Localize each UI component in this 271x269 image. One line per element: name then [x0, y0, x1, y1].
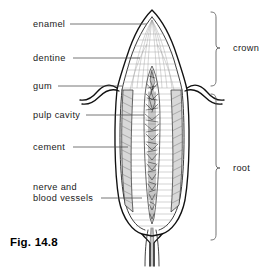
label-enamel: enamel: [33, 19, 65, 29]
label-nerve-vessels-line1: nerve and: [33, 182, 77, 192]
tooth-diagram-figure: enamel dentine gum pulp cavity cement ne…: [0, 0, 271, 269]
label-gum: gum: [33, 81, 52, 91]
bracket-label-crown: crown: [233, 43, 259, 53]
label-nerve-vessels-line2: blood vessels: [33, 193, 93, 203]
figure-caption: Fig. 14.8: [10, 236, 58, 248]
diagram-canvas: enamel dentine gum pulp cavity cement ne…: [0, 0, 271, 269]
label-dentine: dentine: [33, 53, 66, 63]
bracket-label-root: root: [233, 163, 250, 173]
label-pulp-cavity: pulp cavity: [33, 110, 80, 120]
label-cement: cement: [33, 142, 65, 152]
